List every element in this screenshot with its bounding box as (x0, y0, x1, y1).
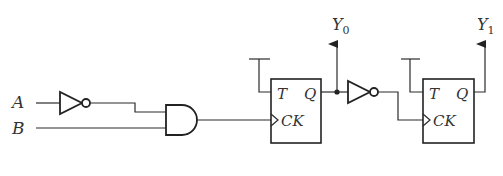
ff1-t-label: T (277, 85, 288, 103)
input-label-a: A (10, 92, 24, 112)
ff1-q-label: Q (304, 85, 316, 103)
output-label-y0: Y0 (332, 15, 350, 37)
ff1-ck-label: CK (281, 112, 304, 130)
ff2-q-label: Q (456, 85, 468, 103)
input-label-b: B (11, 118, 25, 138)
not-gate-a (60, 92, 90, 114)
not-gate-q (348, 81, 378, 103)
t-flipflop-1: T Q CK (271, 79, 321, 143)
y1-arrow (474, 44, 485, 92)
wire-not-a-to-and (90, 103, 166, 112)
ff2-ck-label: CK (433, 112, 456, 130)
t-flipflop-2: T Q CK (423, 79, 474, 143)
wire-not-q-to-ff2-ck (378, 92, 423, 120)
logic-circuit-diagram: A B T Q CK Y0 T Q CK (0, 0, 503, 176)
ff1-t-wire (259, 59, 271, 92)
ff2-t-wire (410, 59, 423, 92)
output-label-y1: Y1 (477, 15, 495, 37)
and-gate (166, 105, 197, 135)
ff2-t-label: T (429, 85, 440, 103)
